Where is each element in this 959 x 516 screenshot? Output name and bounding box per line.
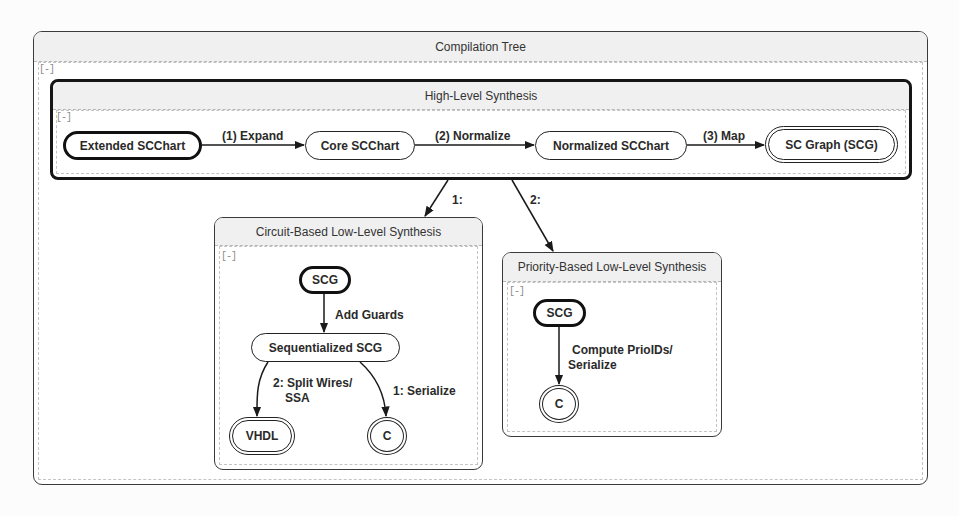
priority-collapse-toggle[interactable]: [-]: [509, 286, 524, 297]
node-label: Sequentialized SCG: [269, 341, 382, 355]
node-normalized-scchart: Normalized SCChart: [535, 131, 687, 160]
node-label: Core SCChart: [321, 139, 400, 153]
compilation-tree-title: Compilation Tree: [435, 40, 526, 54]
edge-label-normalize: (2) Normalize: [435, 129, 510, 143]
node-core-scchart: Core SCChart: [305, 131, 415, 160]
node-label: Extended SCChart: [80, 139, 185, 153]
circuit-based-synthesis-header: Circuit-Based Low-Level Synthesis: [215, 218, 482, 246]
edge-label-split-wires-line2: SSA: [285, 391, 310, 405]
edge-label-compute-prioids-line1: Compute PrioIDs/: [572, 343, 673, 357]
branch-label-circuit: 1:: [452, 193, 463, 207]
circuit-collapse-toggle[interactable]: [-]: [221, 251, 236, 262]
edge-label-serialize: 1: Serialize: [393, 384, 456, 398]
node-label: C: [383, 429, 392, 443]
node-sc-graph: SC Graph (SCG): [765, 126, 898, 163]
priority-based-synthesis-title: Priority-Based Low-Level Synthesis: [518, 260, 707, 274]
compilation-tree-header: Compilation Tree: [34, 32, 927, 62]
node-circuit-c: C: [367, 417, 407, 455]
high-level-synthesis-title: High-Level Synthesis: [425, 89, 538, 103]
node-sequentialized-scg: Sequentialized SCG: [251, 333, 400, 362]
node-label: VHDL: [246, 429, 279, 443]
priority-based-synthesis-header: Priority-Based Low-Level Synthesis: [503, 253, 721, 282]
high-level-synthesis-header: High-Level Synthesis: [53, 82, 909, 110]
node-priority-scg: SCG: [533, 299, 586, 327]
node-label: SCG: [312, 273, 338, 287]
node-label: C: [555, 397, 564, 411]
edge-label-split-wires-line1: 2: Split Wires/: [273, 376, 352, 390]
node-vhdl: VHDL: [229, 417, 295, 455]
edge-label-compute-prioids-line2: Serialize: [568, 358, 617, 372]
edge-label-map: (3) Map: [703, 129, 745, 143]
circuit-based-synthesis-title: Circuit-Based Low-Level Synthesis: [256, 225, 441, 239]
high-level-collapse-toggle[interactable]: [-]: [56, 112, 71, 123]
node-label: Normalized SCChart: [553, 139, 669, 153]
node-extended-scchart: Extended SCChart: [63, 131, 202, 160]
node-label: SC Graph (SCG): [785, 138, 878, 152]
edge-label-add-guards: Add Guards: [335, 308, 404, 322]
compilation-tree-collapse-toggle[interactable]: [-]: [39, 64, 54, 75]
node-label: SCG: [546, 306, 572, 320]
edge-label-expand: (1) Expand: [222, 129, 283, 143]
branch-label-priority: 2:: [530, 193, 541, 207]
node-priority-c: C: [539, 385, 579, 423]
node-circuit-scg: SCG: [299, 266, 351, 294]
